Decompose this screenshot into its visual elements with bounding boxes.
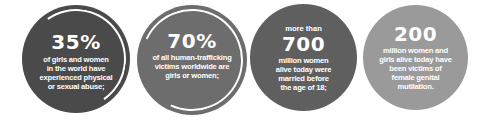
stat-value: 35% (51, 32, 100, 52)
stat-description: million women alive today were married b… (276, 56, 331, 92)
stat-circle-fgm: 200 million women and girls alive today … (363, 5, 468, 110)
stat-value: 700 (282, 34, 325, 54)
stat-circle-child-marriage: more than 700 million women alive today … (250, 4, 357, 111)
stat-description: of all human-trafficking victims worldwi… (152, 53, 231, 80)
stat-value: 70% (167, 31, 216, 51)
stat-circle-abuse: 35% of girls and women in the world have… (22, 5, 130, 113)
stat-value: 200 (394, 24, 437, 44)
stat-description: million women and girls alive today have… (379, 46, 451, 91)
stat-circle-trafficking: 70% of all human-trafficking victims wor… (137, 5, 247, 115)
stat-description: of girls and women in the world have exp… (40, 55, 113, 91)
